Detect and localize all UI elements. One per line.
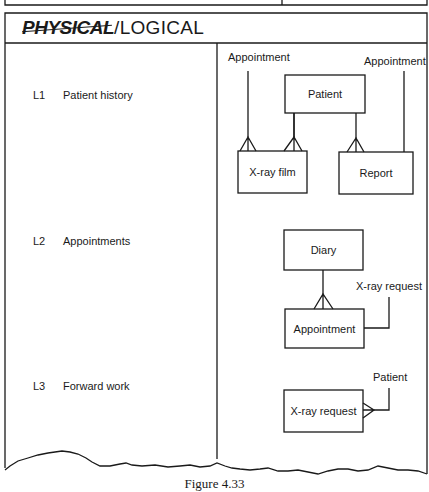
entity-diary: Diary — [284, 230, 363, 270]
external-label-appointment-right: Appointment — [364, 55, 426, 67]
crowfoot-appointment — [314, 294, 333, 309]
crowfoot-report — [347, 138, 364, 152]
entity-report: Report — [339, 152, 413, 194]
level-name: Patient history — [63, 89, 133, 101]
patient-link — [374, 388, 389, 410]
page-title: PHYSICAL/LOGICAL — [22, 17, 204, 39]
level-l2: L2Appointments — [33, 235, 130, 247]
top-strip-border — [5, 0, 427, 5]
struck-out-word: PHYSICAL — [22, 17, 114, 38]
figure-caption: Figure 4.33 — [0, 476, 429, 492]
external-label-patient: Patient — [373, 371, 407, 383]
level-code: L1 — [33, 89, 63, 101]
crowfoot-xray-film-right — [284, 137, 302, 151]
level-name: Forward work — [63, 380, 130, 392]
level-l3: L3Forward work — [33, 380, 130, 392]
entity-xray-request: X-ray request — [284, 390, 363, 432]
torn-edge — [5, 451, 427, 474]
entity-patient: Patient — [285, 75, 365, 113]
title-word: LOGICAL — [120, 17, 204, 38]
level-code: L3 — [33, 380, 63, 392]
level-l1: L1Patient history — [33, 89, 133, 101]
xray-request-link — [364, 297, 389, 328]
external-label-xray-request: X-ray request — [356, 280, 422, 292]
level-code: L2 — [33, 235, 63, 247]
crowfoot-xray-film-left — [240, 137, 256, 151]
entity-appointment: Appointment — [285, 309, 364, 348]
external-label-appointment-left: Appointment — [228, 51, 290, 63]
entity-xray-film: X-ray film — [238, 151, 307, 193]
crowfoot-xray-request — [363, 403, 374, 418]
level-name: Appointments — [63, 235, 130, 247]
